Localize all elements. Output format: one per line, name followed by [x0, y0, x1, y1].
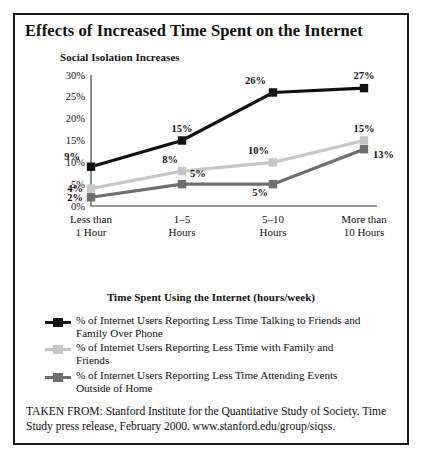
legend-marker-icon	[45, 316, 71, 329]
data-point-label: 27%	[354, 70, 375, 81]
legend-marker-icon	[45, 343, 71, 356]
data-point-label: 9%	[64, 151, 80, 162]
legend-item[interactable]: % of Internet Users Reporting Less Time …	[45, 369, 395, 395]
figure-frame: Effects of Increased Time Spent on the I…	[13, 13, 409, 445]
data-point-marker	[269, 88, 277, 96]
x-axis-tick-label: 1–5	[174, 213, 191, 225]
y-axis-tick-label: 25%	[66, 92, 86, 103]
data-point-label: 8%	[162, 154, 178, 165]
data-point-marker	[360, 136, 368, 144]
data-point-marker	[87, 193, 95, 201]
x-axis-tick-label: 10 Hours	[344, 226, 385, 238]
x-axis-tick-label: 1 Hour	[76, 226, 107, 238]
data-point-label: 2%	[67, 192, 83, 203]
data-point-marker	[360, 84, 368, 92]
chart-axes	[91, 75, 377, 206]
data-point-marker	[269, 180, 277, 188]
page-title: Effects of Increased Time Spent on the I…	[15, 15, 407, 40]
data-point-label: 5%	[252, 187, 268, 198]
legend-item-label: % of Internet Users Reporting Less Time …	[76, 314, 360, 340]
chart-legend: % of Internet Users Reporting Less Time …	[15, 314, 407, 395]
x-axis-tick-label: More than	[341, 213, 387, 225]
x-axis-tick-label: 5–10	[262, 213, 285, 225]
legend-marker-icon	[45, 371, 71, 384]
legend-item-label: % of Internet Users Reporting Less Time …	[76, 341, 333, 367]
data-point-marker	[360, 145, 368, 153]
series-line	[91, 88, 364, 167]
line-chart: 0%5%10%15%20%25%30%Less than1 Hour1–5Hou…	[15, 63, 411, 288]
y-axis-tick-label: 30%	[66, 70, 86, 81]
x-axis-title: Time Spent Using the Internet (hours/wee…	[15, 291, 407, 303]
chart-heading: Social Isolation Increases	[15, 40, 407, 63]
chart-area: 0%5%10%15%20%25%30%Less than1 Hour1–5Hou…	[15, 63, 411, 288]
data-point-label: 10%	[248, 145, 269, 156]
legend-item[interactable]: % of Internet Users Reporting Less Time …	[45, 341, 395, 367]
data-point-label: 15%	[172, 123, 193, 134]
data-point-marker	[87, 163, 95, 171]
x-axis-tick-label: Hours	[260, 226, 287, 238]
legend-item-label: % of Internet Users Reporting Less Time …	[76, 369, 337, 395]
data-point-marker	[178, 136, 186, 144]
y-axis-tick-label: 15%	[66, 135, 86, 146]
y-axis-tick-label: 20%	[66, 113, 86, 124]
source-note: TAKEN FROM: Stanford Institute for the Q…	[26, 404, 397, 434]
x-axis-tick-label: Hours	[169, 226, 196, 238]
data-point-label: 15%	[354, 123, 375, 134]
data-point-marker	[269, 158, 277, 166]
data-point-marker	[178, 167, 186, 175]
legend-item[interactable]: % of Internet Users Reporting Less Time …	[45, 314, 395, 340]
x-axis-tick-label: Less than	[70, 213, 112, 225]
data-point-label: 13%	[373, 149, 394, 160]
data-point-marker	[178, 180, 186, 188]
data-point-label: 26%	[245, 76, 266, 87]
data-point-label: 5%	[190, 168, 206, 179]
data-point-marker	[87, 184, 95, 192]
